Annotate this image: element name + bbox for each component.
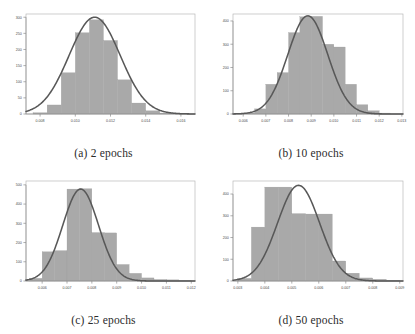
svg-text:400: 400 (223, 192, 229, 196)
svg-text:0.012: 0.012 (375, 119, 384, 123)
svg-text:0: 0 (227, 112, 229, 116)
svg-text:500: 500 (16, 183, 22, 187)
svg-text:300: 300 (16, 222, 22, 226)
svg-text:300: 300 (223, 43, 229, 47)
svg-text:0.010: 0.010 (329, 119, 338, 123)
svg-text:0: 0 (20, 112, 22, 116)
plot-c: 0.0060.0070.0080.0090.0100.0110.01201002… (0, 167, 207, 303)
svg-text:0.012: 0.012 (106, 119, 115, 123)
svg-text:0.011: 0.011 (352, 119, 361, 123)
svg-text:250: 250 (16, 32, 22, 36)
svg-text:0.006: 0.006 (38, 286, 47, 290)
svg-text:100: 100 (16, 260, 22, 264)
figure-grid: 0.0080.0100.0120.0140.016050100150200250… (0, 0, 415, 334)
svg-text:0.006: 0.006 (314, 286, 323, 290)
svg-text:0.008: 0.008 (36, 119, 45, 123)
svg-text:0.008: 0.008 (368, 286, 377, 290)
svg-text:200: 200 (223, 66, 229, 70)
svg-text:0.013: 0.013 (397, 119, 406, 123)
svg-text:100: 100 (16, 80, 22, 84)
panel-a: 0.0080.0100.0120.0140.016050100150200250… (0, 0, 207, 167)
chart-d: 0.0030.0040.0050.0060.0070.0080.00901002… (207, 167, 415, 303)
svg-text:0.007: 0.007 (341, 286, 350, 290)
svg-text:0.008: 0.008 (284, 119, 293, 123)
plot-d: 0.0030.0040.0050.0060.0070.0080.00901002… (207, 167, 415, 303)
svg-text:200: 200 (16, 241, 22, 245)
svg-text:0.007: 0.007 (63, 286, 72, 290)
caption-b: (b) 10 epochs (207, 147, 415, 159)
svg-text:0.004: 0.004 (260, 286, 269, 290)
panel-d: 0.0030.0040.0050.0060.0070.0080.00901002… (207, 167, 415, 334)
svg-text:50: 50 (18, 96, 22, 100)
svg-text:200: 200 (223, 236, 229, 240)
svg-text:0.012: 0.012 (187, 286, 196, 290)
svg-text:300: 300 (223, 214, 229, 218)
svg-text:0.005: 0.005 (287, 286, 296, 290)
panel-b: 0.0060.0070.0080.0090.0100.0110.0120.013… (207, 0, 415, 167)
svg-text:0.010: 0.010 (137, 286, 146, 290)
svg-text:0: 0 (20, 279, 22, 283)
svg-text:0.009: 0.009 (112, 286, 121, 290)
caption-d: (d) 50 epochs (207, 314, 415, 326)
svg-text:0.014: 0.014 (141, 119, 150, 123)
plot-b: 0.0060.0070.0080.0090.0100.0110.0120.013… (207, 0, 415, 136)
chart-a: 0.0080.0100.0120.0140.016050100150200250… (0, 0, 207, 136)
chart-b: 0.0060.0070.0080.0090.0100.0110.0120.013… (207, 0, 415, 136)
svg-text:0.011: 0.011 (162, 286, 171, 290)
svg-text:400: 400 (16, 202, 22, 206)
plot-a: 0.0080.0100.0120.0140.016050100150200250… (0, 0, 207, 136)
svg-text:0.007: 0.007 (261, 119, 270, 123)
svg-text:0: 0 (227, 279, 229, 283)
svg-text:0.010: 0.010 (71, 119, 80, 123)
chart-c: 0.0060.0070.0080.0090.0100.0110.01201002… (0, 167, 207, 303)
svg-text:0.016: 0.016 (176, 119, 185, 123)
svg-text:200: 200 (16, 48, 22, 52)
caption-a: (a) 2 epochs (0, 147, 207, 159)
svg-text:100: 100 (223, 258, 229, 262)
svg-text:0.006: 0.006 (239, 119, 248, 123)
svg-text:300: 300 (16, 16, 22, 20)
caption-c: (c) 25 epochs (0, 314, 207, 326)
svg-text:400: 400 (223, 19, 229, 23)
panel-c: 0.0060.0070.0080.0090.0100.0110.01201002… (0, 167, 207, 334)
svg-text:100: 100 (223, 89, 229, 93)
svg-text:150: 150 (16, 64, 22, 68)
svg-text:0.009: 0.009 (307, 119, 316, 123)
svg-text:0.003: 0.003 (233, 286, 242, 290)
svg-text:0.008: 0.008 (87, 286, 96, 290)
svg-text:0.009: 0.009 (395, 286, 404, 290)
